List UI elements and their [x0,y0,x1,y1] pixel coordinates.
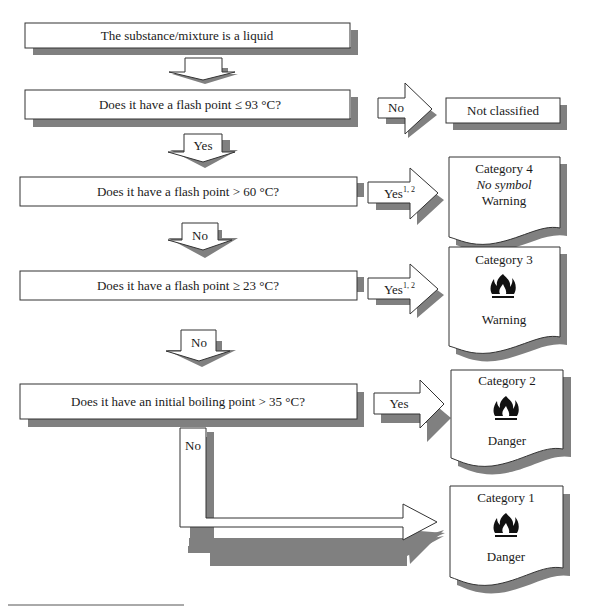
question-text-1: Does it have a flash point ≤ 93 °C? [99,97,281,112]
arrow-start-down [169,58,238,84]
category-signal-word: Danger [488,433,527,448]
category-4-box: Category 4 No symbol Warning [449,157,567,252]
arrow-q1-yes: Yes [168,134,238,168]
question-text-3: Does it have a flash point ≥ 23 °C? [97,278,279,293]
question-box-1: Does it have a flash point ≤ 93 °C? [25,90,358,127]
question-text-2: Does it have a flash point > 60 °C? [97,184,279,199]
question-box-3: Does it have a flash point ≥ 23 °C? [20,271,364,300]
start-text: The substance/mixture is a liquid [101,28,274,43]
category-signal-word: Danger [487,549,526,564]
arrow-label: Yes [194,138,213,153]
category-signal-word: Warning [482,312,527,327]
category-title: Category 1 [477,490,534,505]
question-box-2: Does it have a flash point > 60 °C? [20,177,364,206]
start-box: The substance/mixture is a liquid [25,23,358,55]
category-3-box: Category 3 Warning [449,247,567,361]
arrow-label: No [192,228,208,243]
arrow-q2-no: No [168,223,238,258]
flowchart: The substance/mixture is a liquid Does i… [0,0,591,613]
arrow-q4-yes: Yes [374,380,451,442]
arrow-label: No [191,335,207,350]
arrow-q2-yes: Yes1, 2 [368,168,444,225]
category-1-box: Category 1 Danger [450,486,570,593]
arrow-label: No [185,438,201,453]
arrow-q3-no: No [166,330,236,367]
category-2-box: Category 2 Danger [451,370,571,474]
category-symbol-text: No symbol [475,177,532,192]
not-classified-box: Not classified [446,98,567,130]
question-text-4: Does it have an initial boiling point > … [71,394,305,409]
arrow-label: No [388,100,404,115]
category-title: Category 4 [475,161,533,176]
arrow-q4-no: No [180,428,445,566]
not-classified-text: Not classified [467,103,539,118]
arrow-label: Yes [390,396,409,411]
arrow-q1-no: No [378,83,437,138]
arrow-q3-yes: Yes1, 2 [368,264,444,318]
question-box-4: Does it have an initial boiling point > … [20,384,364,427]
category-signal-word: Warning [482,193,527,208]
category-title: Category 3 [475,252,532,267]
category-title: Category 2 [478,373,535,388]
